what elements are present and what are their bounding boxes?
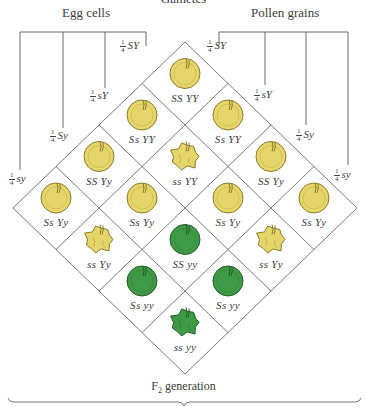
f2-brace-icon (8, 398, 361, 406)
punnett-square-diagram: Gametes Egg cells Pollen grains 14SY14sY… (0, 0, 367, 408)
cell-genotype-label: Ss yy (130, 299, 154, 311)
gamete-genotype: sY (98, 89, 108, 101)
gamete-genotype: SY (215, 39, 227, 51)
round-yellow-pea-icon (127, 100, 157, 130)
egg-gamete-Sy: 14Sy (50, 129, 68, 144)
round-yellow-pea-icon (256, 142, 286, 172)
cell-genotype-label: SS Yy (258, 175, 284, 187)
cell-genotype-label: ss Yy (87, 258, 111, 270)
egg-gamete-SY: 14SY (120, 39, 139, 54)
gamete-genotype: sY (262, 88, 272, 100)
round-green-pea-icon (170, 225, 200, 255)
round-green-pea-icon (213, 266, 243, 296)
cell-genotype-label: Ss YY (129, 133, 155, 145)
cell-genotype-label: Ss Yy (215, 216, 240, 228)
round-green-pea-icon (127, 266, 157, 296)
f2-generation-label: F2 generation (0, 379, 367, 395)
cell-genotype-label: Ss Yy (129, 216, 154, 228)
gamete-genotype: Sy (304, 128, 314, 140)
f2-prefix: F (151, 379, 158, 393)
fraction: 14 (334, 168, 340, 183)
round-yellow-pea-icon (84, 142, 114, 172)
gamete-genotype: sy (17, 172, 26, 184)
cell-genotype-label: Ss YY (215, 133, 241, 145)
fraction: 14 (207, 39, 213, 54)
gamete-genotype: sy (342, 168, 351, 180)
pollen-gamete-Sy: 14Sy (296, 128, 314, 143)
fraction: 14 (120, 39, 126, 54)
pollen-gamete-sY: 14sY (254, 88, 272, 103)
fraction: 14 (296, 128, 302, 143)
cell-genotype-label: Ss Yy (301, 216, 326, 228)
round-yellow-pea-icon (299, 183, 329, 213)
round-yellow-pea-icon (213, 183, 243, 213)
pollen-gamete-sy: 14sy (334, 168, 351, 183)
egg-gamete-sy: 14sy (9, 172, 26, 187)
cell-genotype-label: ss YY (172, 175, 197, 187)
round-yellow-pea-icon (213, 100, 243, 130)
cell-genotype-label: SS yy (172, 258, 197, 270)
cell-genotype-label: SS YY (171, 92, 199, 104)
f2-suffix: generation (162, 379, 216, 393)
cell-genotype-label: ss yy (174, 341, 197, 353)
cell-genotype-label: SS Yy (86, 175, 112, 187)
fraction: 14 (90, 89, 96, 104)
wrinkled-yellow-pea-icon (85, 225, 113, 254)
cell-genotype-label: Ss Yy (43, 216, 68, 228)
egg-gamete-sY: 14sY (90, 89, 108, 104)
wrinkled-yellow-pea-icon (171, 142, 199, 171)
round-yellow-pea-icon (127, 183, 157, 213)
wrinkled-green-pea-icon (171, 308, 199, 337)
round-yellow-pea-icon (170, 59, 200, 89)
wrinkled-yellow-pea-icon (257, 225, 285, 254)
fraction: 14 (50, 129, 56, 144)
gamete-genotype: Sy (58, 129, 68, 141)
round-yellow-pea-icon (41, 183, 71, 213)
fraction: 14 (254, 88, 260, 103)
gamete-genotype: SY (128, 39, 140, 51)
cell-genotype-label: Ss yy (216, 299, 240, 311)
pollen-gamete-SY: 14SY (207, 39, 226, 54)
fraction: 14 (9, 172, 15, 187)
cell-genotype-label: ss Yy (259, 258, 283, 270)
